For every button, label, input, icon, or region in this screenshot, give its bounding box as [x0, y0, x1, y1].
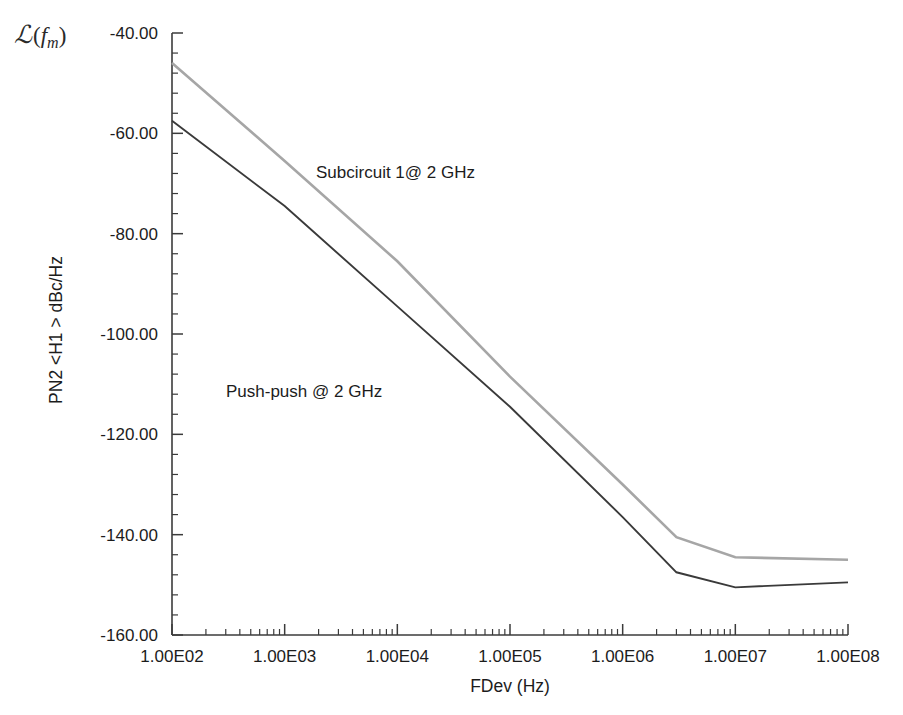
x-tick-label: 1.00E05	[478, 647, 541, 666]
plot-area: 1.00E021.00E031.00E041.00E051.00E061.00E…	[0, 0, 903, 715]
series-annotations: Subcircuit 1@ 2 GHzPush-push @ 2 GHz	[226, 163, 475, 401]
series-annotation-2: Push-push @ 2 GHz	[226, 382, 382, 401]
x-tick-label: 1.00E06	[591, 647, 654, 666]
x-tick-label: 1.00E08	[816, 647, 879, 666]
x-axis-title: FDev (Hz)	[470, 676, 550, 696]
y-tick-label: -120.00	[100, 425, 158, 444]
y-tick-label: -40.00	[110, 24, 158, 43]
x-tick-label: 1.00E07	[704, 647, 767, 666]
phase-noise-chart: ℒ(fm) 1.00E021.00E031.00E041.00E051.00E0…	[0, 0, 903, 715]
y-tick-labels: -40.00-60.00-80.00-100.00-120.00-140.00-…	[100, 24, 158, 645]
tick-marks	[172, 33, 848, 635]
x-tick-labels: 1.00E021.00E031.00E041.00E051.00E061.00E…	[140, 647, 879, 666]
y-tick-label: -60.00	[110, 124, 158, 143]
y-axis-title: PN2 <H1 > dBc/Hz	[46, 256, 66, 404]
y-tick-label: -140.00	[100, 526, 158, 545]
y-tick-label: -100.00	[100, 325, 158, 344]
x-tick-label: 1.00E04	[366, 647, 429, 666]
series-line-1	[172, 63, 848, 560]
y-tick-label: -80.00	[110, 225, 158, 244]
x-tick-label: 1.00E03	[253, 647, 316, 666]
y-tick-label: -160.00	[100, 626, 158, 645]
axes-lines	[172, 33, 848, 635]
series-annotation-1: Subcircuit 1@ 2 GHz	[316, 163, 475, 182]
x-tick-label: 1.00E02	[140, 647, 203, 666]
data-series	[172, 63, 848, 587]
series-line-2	[172, 121, 848, 588]
